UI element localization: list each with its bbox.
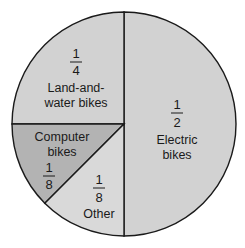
electric-label-line2: bikes — [162, 148, 191, 162]
electric-label-line1: Electric — [157, 133, 198, 147]
other-fraction-denominator: 8 — [95, 190, 102, 205]
computer-label-line2: bikes — [47, 145, 76, 159]
electric-fraction-numerator: 1 — [173, 97, 180, 112]
computer-label-line1: Computer — [35, 130, 90, 144]
other-fraction-numerator: 1 — [95, 172, 102, 187]
land-label-line1: Land-and- — [48, 81, 105, 95]
land-fraction-denominator: 4 — [72, 63, 79, 78]
electric-fraction-denominator: 2 — [173, 115, 180, 130]
land-label-line2: water bikes — [43, 96, 107, 110]
land-fraction-numerator: 1 — [72, 46, 79, 61]
pie-chart: 1 2 Electric bikes 1 4 Land-and- water b… — [0, 0, 245, 248]
computer-fraction-denominator: 8 — [45, 177, 52, 192]
other-label: Other — [83, 207, 114, 221]
computer-fraction-numerator: 1 — [45, 160, 52, 175]
